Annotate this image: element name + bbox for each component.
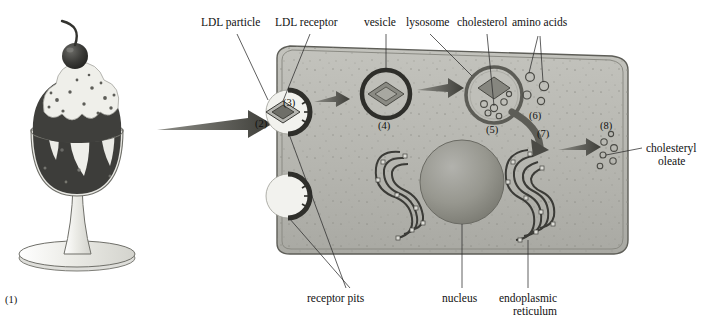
step-number-5: (5) bbox=[486, 124, 498, 135]
step-number-6: (6) bbox=[529, 110, 541, 121]
step-number-4: (4) bbox=[378, 120, 390, 131]
step-number-3: (3) bbox=[283, 97, 295, 108]
label-ldl-particle: LDL particle bbox=[201, 16, 260, 29]
label-lysosome: lysosome bbox=[406, 16, 449, 29]
label-cholesteryl-oleate-line2: oleate bbox=[658, 155, 685, 168]
label-endoplasmic-line2: reticulum bbox=[513, 305, 557, 318]
label-endoplasmic-line1: endoplasmic bbox=[499, 292, 557, 305]
step-number-1: (1) bbox=[5, 294, 17, 305]
label-amino-acids: amino acids bbox=[512, 16, 567, 29]
label-receptor-pits: receptor pits bbox=[307, 292, 364, 305]
step-number-7: (7) bbox=[537, 128, 549, 139]
label-cholesterol: cholesterol bbox=[457, 16, 507, 29]
figure-canvas: LDL particle LDL receptor vesicle lysoso… bbox=[0, 0, 707, 324]
diagram-artwork bbox=[0, 0, 707, 324]
label-ldl-receptor: LDL receptor bbox=[275, 16, 337, 29]
label-cholesteryl-oleate-line1: cholesteryl bbox=[646, 142, 696, 155]
step-number-8: (8) bbox=[600, 120, 612, 131]
sundae-illustration bbox=[19, 21, 135, 271]
nucleus-shape bbox=[420, 140, 504, 224]
label-vesicle: vesicle bbox=[364, 16, 396, 29]
step-number-2: (2) bbox=[255, 118, 267, 129]
label-nucleus: nucleus bbox=[442, 292, 477, 305]
vesicle-shape bbox=[362, 70, 410, 118]
